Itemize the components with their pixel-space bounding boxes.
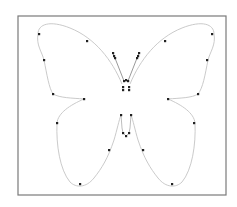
diagram-frame bbox=[18, 16, 226, 195]
control-point bbox=[122, 89, 124, 91]
control-point bbox=[122, 132, 124, 134]
control-point bbox=[56, 122, 58, 124]
control-point bbox=[122, 86, 124, 88]
control-point bbox=[206, 59, 208, 61]
control-point bbox=[123, 80, 125, 82]
control-point bbox=[127, 80, 129, 82]
control-point bbox=[79, 183, 81, 185]
control-point bbox=[86, 40, 88, 42]
control-point bbox=[142, 149, 144, 151]
control-point bbox=[197, 93, 199, 95]
control-point bbox=[113, 55, 115, 57]
control-point bbox=[137, 55, 139, 57]
control-point bbox=[193, 122, 195, 124]
butterfly-diagram bbox=[0, 0, 237, 207]
control-point bbox=[83, 98, 85, 100]
control-point bbox=[120, 114, 122, 116]
control-point bbox=[167, 98, 169, 100]
control-point bbox=[112, 52, 114, 54]
control-point bbox=[128, 89, 130, 91]
control-point bbox=[171, 183, 173, 185]
control-point bbox=[125, 79, 127, 81]
control-point bbox=[164, 40, 166, 42]
control-point bbox=[114, 57, 116, 59]
control-point bbox=[138, 52, 140, 54]
control-point bbox=[211, 33, 213, 35]
control-point bbox=[43, 59, 45, 61]
control-point bbox=[125, 135, 127, 137]
control-point bbox=[128, 132, 130, 134]
control-point bbox=[38, 33, 40, 35]
control-point bbox=[128, 86, 130, 88]
control-point bbox=[52, 93, 54, 95]
control-point bbox=[130, 114, 132, 116]
control-point bbox=[108, 149, 110, 151]
control-point bbox=[136, 57, 138, 59]
